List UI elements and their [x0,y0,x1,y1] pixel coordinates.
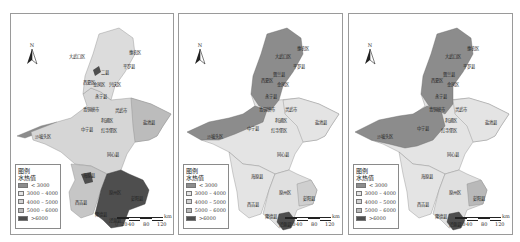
svg-text:原州区: 原州区 [109,190,122,195]
north-arrow-icon [193,48,207,66]
legend-label: 4000 – 5000 [27,199,58,205]
scale-bar: km 0 20 40 80 120 [455,214,509,232]
legend-title: 图例 [186,167,226,174]
legend-label: 4000 – 5000 [195,199,226,205]
region-pengyang [297,180,317,206]
legend-item: 4000 – 5000 [18,198,58,206]
scale-bar-graphic [285,217,331,219]
legend-item: < 3000 [186,181,226,189]
region-north [251,28,303,110]
svg-text:原州区: 原州区 [279,190,292,195]
svg-text:红寺堡区: 红寺堡区 [101,127,118,133]
legend-swatch [356,216,366,221]
svg-text:永宁县: 永宁县 [435,93,448,100]
legend-label: < 3000 [31,182,50,188]
north-arrow-icon [25,48,39,66]
legend-swatch [186,191,192,196]
scale-tick: 120 [495,221,505,227]
legend-swatch [18,183,28,188]
scale-tick: 80 [143,221,149,227]
svg-text:彭阳县: 彭阳县 [303,195,316,202]
svg-text:灵武市: 灵武市 [115,107,128,114]
svg-text:隆德县: 隆德县 [265,213,278,220]
scale-tick: 0 [453,221,456,227]
legend-label: 3000 – 4000 [195,190,226,196]
legend-swatch [186,183,196,188]
legend-swatch [18,208,24,213]
scale-tick: 0 [115,221,118,227]
svg-text:红寺堡区: 红寺堡区 [271,127,288,133]
north-arrow: N [193,42,207,68]
legend-item: 5000 – 6000 [356,206,396,214]
svg-text:永宁县: 永宁县 [265,93,278,100]
scale-unit: km [332,213,340,219]
svg-text:兴庆区: 兴庆区 [109,81,122,88]
map-legend: 图例 水热值 < 3000 3000 – 4000 4000 – 5000 50… [353,164,399,229]
legend-item: >6000 [18,214,58,222]
legend-label: >6000 [31,215,48,221]
map-legend: 图例 水热值 < 3000 3000 – 4000 4000 – 5000 50… [15,164,61,229]
legend-subtitle: 水热值 [186,174,226,181]
svg-text:盐池县: 盐池县 [315,119,328,126]
map-legend: 图例 水热值 < 3000 3000 – 4000 4000 – 5000 50… [183,164,229,229]
legend-item: 5000 – 6000 [18,206,58,214]
svg-text:大武口区: 大武口区 [445,53,462,60]
legend-swatch [356,208,362,213]
legend-item: 4000 – 5000 [356,198,396,206]
scale-tick: 0 [283,221,286,227]
svg-text:同心县: 同心县 [107,151,120,158]
legend-swatch [186,216,196,221]
svg-text:海原县: 海原县 [251,173,264,180]
scale-unit: km [164,213,172,219]
svg-text:同心县: 同心县 [447,151,460,158]
map-panel-3: 惠农区 大武口区 平罗县 贺兰县 西夏区 金凤区 永宁县 青铜峡市 灵武市 利通… [348,13,513,235]
svg-text:中宁县: 中宁县 [417,125,430,132]
svg-text:金凤区: 金凤区 [447,81,460,88]
legend-swatch [356,183,366,188]
svg-text:青铜峡市: 青铜峡市 [259,106,276,113]
legend-swatch [18,216,28,221]
legend-label: 5000 – 6000 [365,207,396,213]
legend-label: >6000 [199,215,216,221]
svg-text:贺兰县: 贺兰县 [443,71,456,78]
svg-text:同心县: 同心县 [277,151,290,158]
svg-text:平罗县: 平罗县 [293,64,306,70]
legend-swatch [18,191,24,196]
svg-text:隆德县: 隆德县 [435,213,448,220]
svg-text:大武口区: 大武口区 [69,53,86,60]
svg-text:金凤区: 金凤区 [93,81,106,88]
scale-bar: km 0 20 40 80 120 [117,214,171,232]
svg-text:原州区: 原州区 [449,190,462,195]
scale-tick: 120 [157,221,167,227]
map-panel-1: 惠农区 大武口区 平罗县 二县 西夏区 金凤区 兴庆区 永宁县 青铜峡市 灵武市… [10,13,174,235]
scale-tick: 40 [466,221,472,227]
legend-label: 5000 – 6000 [27,207,58,213]
svg-text:沙坡头区: 沙坡头区 [377,133,394,140]
scale-bar-graphic [455,217,501,219]
svg-text:永宁县: 永宁县 [95,93,108,100]
svg-text:大武口区: 大武口区 [275,53,292,60]
svg-text:灵武市: 灵武市 [285,106,298,113]
svg-text:贺兰县: 贺兰县 [273,71,286,78]
svg-text:隆德县: 隆德县 [95,211,108,218]
svg-text:盐池县: 盐池县 [143,119,156,126]
legend-label: 4000 – 5000 [365,199,396,205]
legend-item: 4000 – 5000 [186,198,226,206]
legend-label: < 3000 [199,182,218,188]
scale-tick: 20 [289,221,295,227]
svg-text:海原县: 海原县 [421,173,434,180]
svg-text:青铜峡市: 青铜峡市 [83,106,100,113]
svg-text:惠农区: 惠农区 [297,45,310,52]
svg-text:惠农区: 惠农区 [467,45,480,52]
scale-tick: 120 [325,221,335,227]
north-arrow-icon [363,48,377,66]
legend-title: 图例 [356,167,396,174]
legend-item: < 3000 [356,181,396,189]
svg-text:沙坡头区: 沙坡头区 [207,133,224,140]
scale-tick: 80 [311,221,317,227]
map-panel-2: 惠农区 大武口区 平罗县 贺兰县 西夏区 金凤区 永宁县 青铜峡市 灵武市 利通… [178,13,343,235]
scale-bar: km 0 20 40 80 120 [285,214,339,232]
legend-item: >6000 [356,214,396,222]
svg-text:利通区: 利通区 [275,117,288,124]
svg-text:彭阳县: 彭阳县 [473,195,486,202]
